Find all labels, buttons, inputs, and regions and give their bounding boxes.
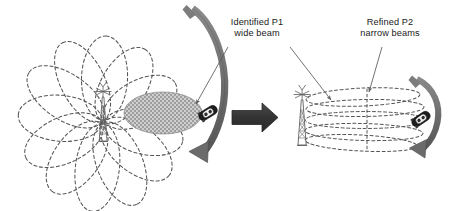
narrow-beam-lobe (305, 112, 425, 129)
wide-beam-lobe (34, 110, 121, 205)
label-refined-p2-narrow-beams: Refined P2 narrow beams (338, 17, 442, 40)
cell-tower-right (294, 85, 311, 146)
narrow-beam-lobe (305, 132, 418, 154)
identified-wide-beam (124, 92, 202, 134)
leader-p2-to-narrow-beams (369, 47, 382, 92)
wide-beam-lobe (70, 121, 124, 211)
leader-p1-to-right-beam (290, 47, 331, 100)
label-identified-p1-wide-beam: Identified P1 wide beam (205, 17, 309, 40)
wide-beam-lobe (16, 102, 112, 179)
right-narrow-beam-pattern (305, 86, 425, 154)
narrow-beam-lobe (306, 98, 424, 117)
wide-beam-lobe (16, 92, 104, 145)
narrow-beam-lobe (305, 122, 423, 142)
diagram-canvas: Identified P1 wide beam Refined P2 narro… (0, 0, 456, 211)
transition-arrow (232, 103, 278, 132)
left-wide-beam-pattern (16, 33, 202, 211)
wide-beam-lobe (43, 33, 122, 131)
